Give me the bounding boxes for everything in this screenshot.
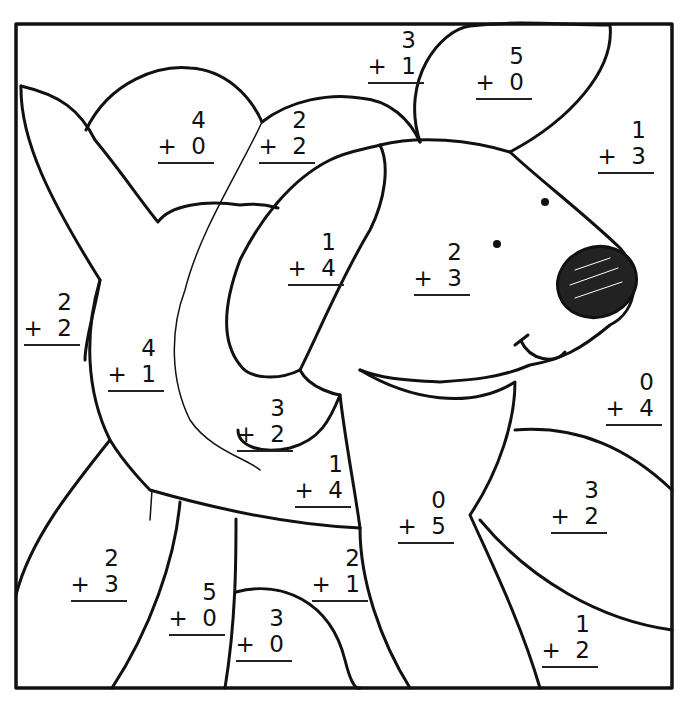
addend-top: 0	[639, 370, 654, 394]
addition-problem: 2+ 3	[71, 546, 127, 604]
answer-line	[158, 162, 214, 164]
addend-top: 2	[292, 108, 307, 132]
answer-line	[108, 390, 164, 392]
addition-problem: 1+ 2	[542, 612, 598, 670]
answer-line	[476, 98, 532, 100]
addend-top: 0	[431, 488, 446, 512]
addition-problem: 0+ 5	[398, 488, 454, 546]
answer-line	[259, 162, 315, 164]
addend-bottom: + 2	[258, 134, 307, 158]
addition-problem: 2+ 2	[24, 290, 80, 348]
addition-problem: 5+ 0	[476, 44, 532, 102]
addition-problem: 3+ 0	[236, 606, 292, 664]
addend-top: 4	[191, 108, 206, 132]
addend-top: 2	[447, 240, 462, 264]
addition-problem: 4+ 0	[158, 108, 214, 166]
addend-top: 2	[57, 290, 72, 314]
answer-line	[542, 666, 598, 668]
answer-line	[551, 532, 607, 534]
addend-bottom: + 1	[107, 362, 156, 386]
addend-bottom: + 0	[157, 134, 206, 158]
addend-bottom: + 2	[550, 504, 599, 528]
addend-top: 5	[202, 580, 217, 604]
answer-line	[24, 344, 80, 346]
addition-problem: 1+ 3	[598, 118, 654, 176]
addend-top: 4	[141, 336, 156, 360]
addend-bottom: + 4	[287, 256, 336, 280]
answer-line	[414, 294, 470, 296]
addend-top: 2	[345, 546, 360, 570]
addend-top: 1	[631, 118, 646, 142]
addend-bottom: + 2	[541, 638, 590, 662]
addition-problem: 1+ 4	[295, 452, 351, 510]
addend-top: 3	[584, 478, 599, 502]
addend-bottom: + 0	[168, 606, 217, 630]
addition-problem: 3+ 1	[368, 28, 424, 86]
addition-problem: 2+ 2	[259, 108, 315, 166]
tail-shape	[21, 86, 278, 222]
addition-problem: 3+ 2	[551, 478, 607, 536]
answer-line	[236, 660, 292, 662]
addend-top: 3	[269, 606, 284, 630]
addition-problem: 2+ 3	[414, 240, 470, 298]
addend-bottom: + 2	[23, 316, 72, 340]
addition-problem: 4+ 1	[108, 336, 164, 394]
addend-top: 1	[328, 452, 343, 476]
answer-line	[368, 82, 424, 84]
addend-bottom: + 4	[605, 396, 654, 420]
answer-line	[288, 284, 344, 286]
answer-line	[312, 600, 368, 602]
addend-bottom: + 1	[311, 572, 360, 596]
addend-bottom: + 1	[367, 54, 416, 78]
addend-top: 1	[575, 612, 590, 636]
answer-line	[237, 450, 293, 452]
addition-problem: 1+ 4	[288, 230, 344, 288]
addend-bottom: + 3	[597, 144, 646, 168]
addend-bottom: + 5	[397, 514, 446, 538]
addition-problem: 3+ 2	[237, 396, 293, 454]
eye-icon	[493, 240, 501, 248]
nose-icon	[547, 235, 646, 328]
addend-bottom: + 0	[235, 632, 284, 656]
addend-top: 1	[321, 230, 336, 254]
eye-icon	[541, 198, 549, 206]
addend-bottom: + 4	[294, 478, 343, 502]
answer-line	[606, 424, 662, 426]
addition-problem: 0+ 4	[606, 370, 662, 428]
addend-top: 3	[270, 396, 285, 420]
answer-line	[598, 172, 654, 174]
addend-bottom: + 0	[475, 70, 524, 94]
addend-bottom: + 2	[236, 422, 285, 446]
answer-line	[169, 634, 225, 636]
addend-top: 5	[509, 44, 524, 68]
addend-top: 2	[104, 546, 119, 570]
addend-bottom: + 3	[413, 266, 462, 290]
answer-line	[398, 542, 454, 544]
answer-line	[71, 600, 127, 602]
addend-bottom: + 3	[70, 572, 119, 596]
addition-problem: 2+ 1	[312, 546, 368, 604]
addition-problem: 5+ 0	[169, 580, 225, 638]
answer-line	[295, 506, 351, 508]
dog-mouth	[521, 341, 565, 359]
addend-top: 3	[401, 28, 416, 52]
